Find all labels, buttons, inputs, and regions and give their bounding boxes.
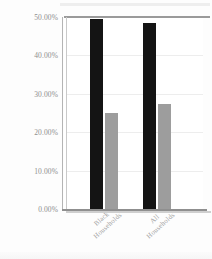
plot-area (64, 17, 203, 209)
y-axis-tick-label: 40.00% (6, 51, 58, 60)
y-axis-tick-label: 50.00% (6, 13, 58, 22)
x-axis-baseline-shadow (66, 211, 211, 213)
gridline (67, 171, 203, 172)
gridline (67, 55, 203, 56)
y-axis-line-outer (62, 17, 63, 211)
y-axis-tick-label: 20.00% (6, 128, 58, 137)
bar-chart: 50.00%40.00%30.00%20.00%10.00%0.00% Blac… (0, 0, 212, 259)
bar (105, 113, 118, 209)
y-axis-tick-label: 30.00% (6, 89, 58, 98)
y-axis-line-inner (66, 17, 67, 210)
scan-artifact-bottom (0, 252, 212, 259)
bar (90, 19, 103, 209)
plot-top-border (64, 16, 210, 18)
y-axis-tick-label: 10.00% (6, 166, 58, 175)
bar (158, 104, 171, 209)
y-axis-tick-label: 0.00% (6, 205, 58, 214)
gridline (67, 132, 203, 133)
gridline (67, 94, 203, 95)
bar (143, 23, 156, 209)
scan-artifact-top (60, 3, 210, 6)
